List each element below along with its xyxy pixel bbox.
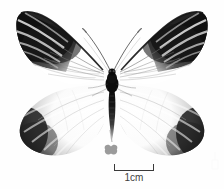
pinned-butterfly-specimen: [0, 0, 224, 189]
scale-bar-tick-right: [153, 164, 154, 171]
specimen-figure: 1cm: [0, 0, 224, 189]
corner-watermark: [209, 151, 221, 171]
butterfly-icon: [104, 144, 118, 156]
scale-bar-line: [112, 164, 156, 171]
scale-bar-rule: [114, 170, 154, 171]
scale-bar-label: 1cm: [112, 172, 156, 184]
scale-bar: 1cm: [112, 164, 156, 184]
